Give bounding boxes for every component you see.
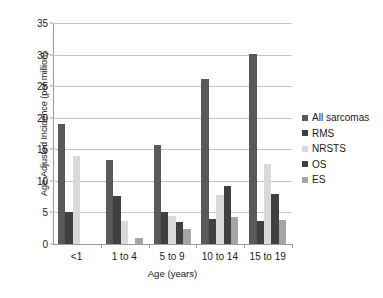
bar <box>58 124 65 244</box>
x-tick-mark <box>292 244 293 248</box>
bar <box>121 221 128 244</box>
bar <box>154 145 161 244</box>
legend-item: RMS <box>302 126 369 142</box>
x-axis-title: Age (years) <box>53 268 292 279</box>
bar <box>168 216 175 244</box>
chart-legend: All sarcomasRMSNRSTSOSES <box>302 110 369 188</box>
bar <box>176 222 183 244</box>
bar <box>249 54 256 244</box>
bar <box>135 238 142 244</box>
y-tick-label: 25 <box>37 81 48 92</box>
legend-label: NRSTS <box>312 143 346 154</box>
bar-group <box>149 23 197 244</box>
legend-item: NRSTS <box>302 141 369 157</box>
legend-swatch-icon <box>302 115 308 121</box>
y-tick-label: 30 <box>37 49 48 60</box>
bar-chart: Age-Adjusted Incidence (per million) 051… <box>0 0 383 298</box>
legend-item: OS <box>302 157 369 173</box>
plot-area: 05101520253035 <11 to 45 to 910 to 1415 … <box>53 23 292 244</box>
y-tick-label: 15 <box>37 144 48 155</box>
legend-swatch-icon <box>302 130 308 136</box>
legend-swatch-icon <box>302 161 308 167</box>
bar <box>113 196 120 244</box>
x-tick-label: 10 to 14 <box>202 251 238 262</box>
x-tick-mark <box>196 244 197 248</box>
bar <box>216 195 223 244</box>
bar-group <box>101 23 149 244</box>
legend-label: ES <box>312 174 325 185</box>
bar <box>224 186 231 244</box>
bar <box>106 160 113 244</box>
x-tick-label: <1 <box>71 251 82 262</box>
bar <box>65 212 72 244</box>
bar <box>209 219 216 244</box>
bar <box>264 164 271 244</box>
x-tick-label: 5 to 9 <box>160 251 185 262</box>
y-axis-title: Age-Adjusted Incidence (per million) <box>39 14 49 234</box>
y-tick-label: 5 <box>42 207 48 218</box>
legend-label: OS <box>312 159 326 170</box>
legend-label: RMS <box>312 128 334 139</box>
legend-item: ES <box>302 172 369 188</box>
bar-group <box>196 23 244 244</box>
y-tick-label: 20 <box>37 112 48 123</box>
legend-swatch-icon <box>302 177 308 183</box>
bar <box>279 220 286 244</box>
y-tick-label: 35 <box>37 18 48 29</box>
bar <box>271 194 278 245</box>
x-tick-label: 15 to 19 <box>250 251 286 262</box>
bar <box>73 156 80 244</box>
bar <box>201 79 208 244</box>
y-tick-label: 0 <box>42 239 48 250</box>
bar <box>183 229 190 244</box>
x-tick-mark <box>101 244 102 248</box>
legend-item: All sarcomas <box>302 110 369 126</box>
bar <box>161 212 168 244</box>
legend-label: All sarcomas <box>312 112 369 123</box>
x-tick-mark <box>244 244 245 248</box>
x-tick-mark <box>149 244 150 248</box>
bar-group <box>53 23 101 244</box>
bar <box>231 217 238 244</box>
bar-group <box>244 23 292 244</box>
x-tick-label: 1 to 4 <box>112 251 137 262</box>
gridline <box>53 244 292 245</box>
y-tick-label: 10 <box>37 175 48 186</box>
bar <box>257 221 264 244</box>
legend-swatch-icon <box>302 146 308 152</box>
